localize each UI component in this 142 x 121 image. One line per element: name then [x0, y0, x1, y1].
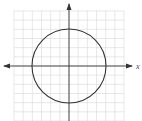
x-axis-label: x	[135, 62, 140, 71]
x-axis-right-arrow-icon	[126, 64, 133, 69]
x-axis	[3, 64, 133, 69]
coordinate-plane-figure: x	[0, 0, 142, 121]
y-axis-up-arrow-icon	[67, 3, 72, 10]
x-axis-left-arrow-icon	[3, 64, 10, 69]
